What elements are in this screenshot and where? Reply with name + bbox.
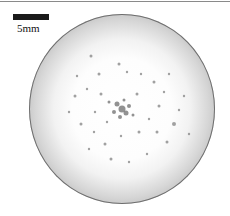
speckle — [90, 55, 93, 58]
speckle — [80, 123, 83, 126]
speckle — [158, 105, 161, 108]
speckle — [118, 63, 121, 66]
speckle — [172, 122, 176, 126]
speckle — [124, 111, 129, 116]
speckle — [140, 73, 142, 75]
speckle — [118, 115, 122, 119]
speckle — [128, 161, 130, 163]
speckle — [98, 73, 101, 76]
speckle — [153, 81, 156, 84]
speckle — [183, 95, 185, 97]
speckle — [94, 111, 96, 113]
speckle — [188, 133, 190, 135]
speckle-layer — [29, 14, 215, 204]
speckle — [166, 141, 169, 144]
speckle — [156, 131, 159, 134]
circular-specimen — [29, 14, 215, 204]
speckle — [126, 71, 128, 73]
speckle — [163, 91, 165, 93]
speckle — [86, 88, 88, 90]
speckle — [148, 118, 150, 120]
speckle — [100, 93, 103, 96]
speckle — [74, 95, 77, 98]
speckle — [136, 93, 139, 96]
speckle — [110, 158, 113, 161]
speckle — [93, 131, 95, 133]
speckle — [88, 148, 90, 150]
speckle — [138, 131, 141, 134]
speckle — [146, 153, 148, 155]
speckle — [76, 75, 78, 77]
speckle — [68, 111, 70, 113]
speckle — [108, 101, 111, 104]
speckle — [123, 99, 126, 102]
speckle — [112, 110, 116, 114]
speckle — [120, 135, 122, 137]
speckle — [168, 73, 170, 75]
speckle — [106, 121, 108, 123]
speckle — [178, 109, 180, 111]
speckle — [115, 102, 120, 107]
speckle — [104, 143, 107, 146]
speckle — [127, 104, 131, 108]
speckle — [132, 114, 135, 117]
top-border-line — [0, 1, 230, 2]
